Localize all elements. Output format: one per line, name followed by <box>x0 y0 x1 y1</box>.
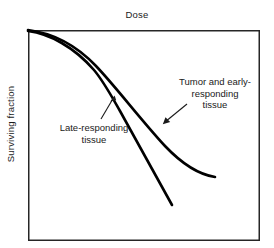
survival-curve-figure: Dose Surviving fraction Late-responding … <box>0 0 274 248</box>
annotation-tumor-early-responding-tissue: Tumor and early- responding tissue <box>166 76 264 111</box>
annotation-late-responding-tissue: Late-responding tissue <box>38 122 150 145</box>
